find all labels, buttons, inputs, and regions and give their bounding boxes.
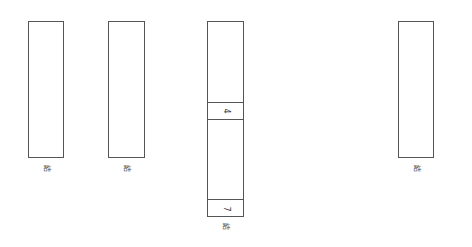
- column-4-label: 結: [406, 164, 426, 172]
- column-3-divider-1: [208, 102, 243, 103]
- column-3-label: 結: [215, 222, 235, 230]
- column-2-label: 結: [116, 164, 136, 172]
- column-3-divider-3: [208, 199, 243, 200]
- column-1-label: 結: [36, 164, 56, 172]
- column-3-divider-2: [208, 119, 243, 120]
- column-2-box: [108, 21, 145, 158]
- column-3-box: 4 7: [207, 21, 244, 217]
- column-1-box: [28, 21, 64, 158]
- column-3-cell-4: 4: [208, 107, 243, 115]
- column-4-box: [398, 21, 434, 158]
- column-3-cell-7: 7: [208, 205, 243, 213]
